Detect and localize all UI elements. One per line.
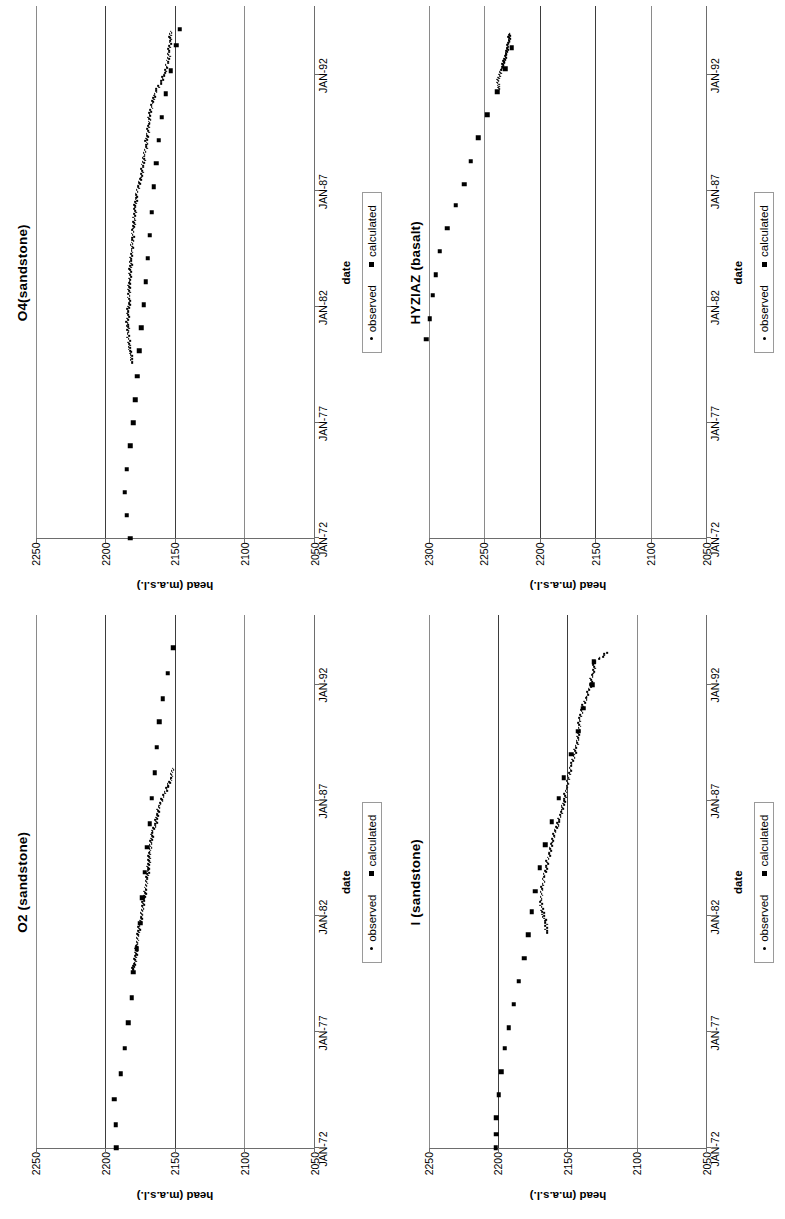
observed-point: [131, 232, 133, 234]
observed-point: [565, 790, 567, 792]
plot-canvas[interactable]: [429, 616, 708, 1150]
y-tick-label: 2100: [645, 543, 657, 566]
observed-point: [546, 865, 548, 867]
gridline: [105, 616, 106, 1149]
observed-point: [128, 319, 130, 321]
observed-point: [129, 274, 131, 276]
observed-point: [150, 104, 152, 106]
observed-point: [144, 154, 146, 156]
observed-point: [566, 785, 568, 787]
panel-o2: O2 (sandstone) head (m.a.s.l.) 205021002…: [0, 610, 393, 1219]
chart-o4[interactable]: O4(sandstone) head (m.a.s.l.) 2050210021…: [10, 6, 389, 604]
y-tick-mark: [595, 539, 596, 544]
observed-point: [576, 735, 578, 737]
observed-point: [143, 152, 145, 154]
observed-point: [585, 697, 587, 699]
observed-point: [590, 678, 592, 680]
calculated-point: [550, 819, 555, 824]
legend-item-observed[interactable]: observed: [758, 895, 770, 950]
observed-point: [160, 83, 162, 85]
plot-area[interactable]: [36, 6, 315, 540]
observed-point: [569, 773, 571, 775]
x-tick-label: JAN-82: [709, 900, 721, 935]
plot-canvas[interactable]: [36, 6, 315, 540]
calculated-point: [157, 138, 162, 143]
chart-o2[interactable]: O2 (sandstone) head (m.a.s.l.) 205021002…: [10, 616, 389, 1214]
legend-item-observed[interactable]: observed: [758, 285, 770, 340]
chart-hyziaz[interactable]: HYZIAZ (basalt) head (m.a.s.l.) 20502100…: [403, 6, 782, 604]
plot-area[interactable]: [36, 616, 315, 1150]
plot-canvas[interactable]: [36, 616, 315, 1150]
observed-point: [580, 709, 582, 711]
calculated-point: [114, 1146, 119, 1151]
observed-point: [576, 747, 578, 749]
observed-point: [130, 258, 132, 260]
legend[interactable]: observed calculated: [362, 802, 382, 963]
plot-area[interactable]: [429, 6, 708, 540]
calculated-point: [166, 671, 171, 676]
observed-point: [152, 107, 154, 109]
plot-canvas[interactable]: [429, 6, 708, 540]
observed-point: [573, 749, 575, 751]
observed-point: [170, 31, 172, 33]
observed-point: [126, 337, 128, 339]
x-axis-label: date: [337, 616, 355, 1150]
legend[interactable]: observed calculated: [754, 192, 774, 353]
observed-point: [149, 114, 151, 116]
y-axis-label: head (m.a.s.l.): [36, 570, 315, 604]
y-tick-label: 2100: [631, 1152, 643, 1175]
legend[interactable]: observed calculated: [362, 192, 382, 353]
chart-title: HYZIAZ (basalt): [403, 6, 429, 540]
observed-point: [543, 885, 545, 887]
legend-item-observed[interactable]: observed: [366, 895, 378, 950]
calculated-point: [150, 210, 155, 215]
gridline: [498, 616, 499, 1149]
calculated-square-icon: [369, 262, 374, 267]
observed-point: [166, 66, 168, 68]
observed-point: [547, 856, 549, 858]
observed-point: [131, 358, 133, 360]
observed-point: [576, 740, 578, 742]
observed-point: [165, 71, 167, 73]
observed-point: [133, 236, 135, 238]
legend-item-calculated[interactable]: calculated: [366, 205, 378, 267]
observed-point: [545, 919, 547, 921]
observed-point: [142, 172, 144, 174]
observed-point: [582, 707, 584, 709]
y-tick-label: 2150: [169, 543, 181, 566]
observed-point: [134, 215, 136, 217]
observed-point: [558, 817, 560, 819]
calculated-point: [537, 866, 542, 871]
chart-i[interactable]: I (sandstone) head (m.a.s.l.) 2050210021…: [403, 616, 782, 1214]
observed-point: [138, 187, 140, 189]
legend-item-calculated[interactable]: calculated: [366, 815, 378, 877]
legend[interactable]: observed calculated: [754, 802, 774, 963]
gridline: [36, 6, 37, 539]
observed-point: [144, 149, 146, 151]
observed-point: [564, 800, 566, 802]
legend-item-calculated[interactable]: calculated: [758, 205, 770, 267]
y-tick-mark: [429, 1148, 430, 1153]
observed-point: [591, 674, 593, 676]
observed-point: [544, 876, 546, 878]
observed-point: [158, 85, 160, 87]
plot-area[interactable]: [429, 616, 708, 1150]
observed-point: [128, 343, 130, 345]
observed-point: [579, 724, 581, 726]
observed-point: [135, 197, 137, 199]
legend-item-observed[interactable]: observed: [366, 285, 378, 340]
calculated-point: [494, 1146, 499, 1151]
x-tick-label: JAN-77: [709, 1016, 721, 1051]
legend-item-calculated[interactable]: calculated: [758, 815, 770, 877]
observed-point: [582, 706, 584, 708]
y-axis-label: head (m.a.s.l.): [36, 1179, 315, 1213]
x-tick-label: JAN-87: [317, 784, 329, 819]
observed-point: [147, 125, 149, 127]
y-tick-mark: [651, 539, 652, 544]
observed-point: [170, 43, 172, 45]
y-tick-label: 2200: [534, 543, 546, 566]
calculated-point: [123, 490, 128, 495]
calculated-point: [499, 1069, 504, 1074]
x-tick-label: JAN-92: [317, 668, 329, 703]
observed-point: [140, 168, 142, 170]
